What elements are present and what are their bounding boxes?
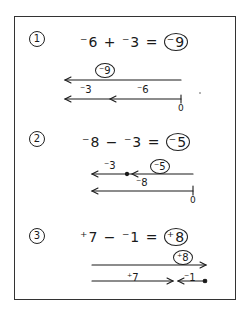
problem-3-result-arrow: [92, 262, 206, 268]
problem-1-segment-arrows: [65, 95, 181, 103]
problem-3-segment-arrows: [92, 278, 207, 284]
problem-2-segment-arrow-bottom: [92, 186, 193, 195]
problem-1-result-arrow: [65, 77, 181, 83]
number-line-diagrams: [0, 0, 246, 317]
problem-2-segment-arrows-top: [92, 171, 193, 177]
